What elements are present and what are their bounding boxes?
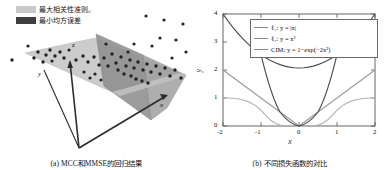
axis-label-z: z — [71, 41, 75, 49]
legend-line-l2-icon — [254, 38, 268, 39]
mmse-plane-surface — [96, 34, 151, 120]
caption-b-tag: (b) — [253, 159, 262, 168]
y-tick-4: 4 — [214, 9, 217, 16]
caption-a-tag: (a) — [50, 159, 59, 168]
loss-chart: 0 1 2 3 4 -2 -1 0 1 2 y x ℓ₁: y = |x| ℓ₂… — [193, 0, 387, 152]
x-axis-title: x — [193, 137, 387, 146]
legend-item-mcc: 最大相关性准则。 — [16, 5, 95, 14]
y-axis-title: y — [194, 69, 203, 72]
y-tick-2: 2 — [214, 65, 217, 72]
legend-line-cim-icon — [254, 49, 268, 50]
caption-a-text: MCC和MMSE的回归结果 — [61, 159, 143, 168]
y-tick-1: 1 — [214, 93, 217, 100]
panel-a-legend: 最大相关性准则。 最小均方误差 — [16, 5, 95, 27]
legend-item-cim: CIM: y = 1−exp(−2x²) — [254, 44, 374, 55]
legend-label-cim: CIM: y = 1−exp(−2x²) — [271, 46, 330, 53]
legend-label-l2: ℓ₂: y = x² — [271, 35, 296, 42]
mcc-swatch-icon — [16, 6, 36, 13]
figure-container: 最大相关性准则。 最小均方误差 — [0, 0, 387, 170]
axis-y-line — [44, 70, 79, 148]
caption-panel-a: (a)MCC和MMSE的回归结果 — [0, 157, 193, 168]
y-tick-0: 0 — [214, 121, 217, 128]
legend-line-l1-icon — [254, 27, 268, 28]
chart-legend: ℓ₁: y = |x| ℓ₂: y = x² CIM: y = 1−exp(−2… — [250, 19, 378, 58]
legend-label-mcc: 最大相关性准则。 — [39, 6, 95, 14]
y-tick-3: 3 — [214, 37, 217, 44]
legend-item-l2: ℓ₂: y = x² — [254, 33, 374, 44]
caption-panel-b: (b)不同损失函数的对比 — [193, 157, 387, 168]
panel-b-loss-functions: 0 1 2 3 4 -2 -1 0 1 2 y x ℓ₁: y = |x| ℓ₂… — [193, 0, 387, 170]
mmse-swatch-icon — [16, 17, 36, 24]
legend-label-mmse: 最小均方误差 — [39, 17, 81, 25]
x-tick-0: 0 — [297, 128, 300, 135]
x-tick-2: 2 — [373, 128, 376, 135]
legend-label-l1: ℓ₁: y = |x| — [271, 24, 296, 31]
axis-label-y: y — [37, 70, 42, 78]
caption-b-text: 不同损失函数的对比 — [264, 159, 328, 168]
legend-item-mmse: 最小均方误差 — [16, 16, 95, 25]
x-tick-1: 1 — [335, 128, 338, 135]
axis-x-line — [79, 96, 166, 148]
legend-item-l1: ℓ₁: y = |x| — [254, 22, 374, 33]
x-tick-neg1: -1 — [255, 128, 261, 135]
panel-a-regression-result: 最大相关性准则。 最小均方误差 — [0, 0, 193, 170]
x-tick-neg2: -2 — [217, 128, 223, 135]
